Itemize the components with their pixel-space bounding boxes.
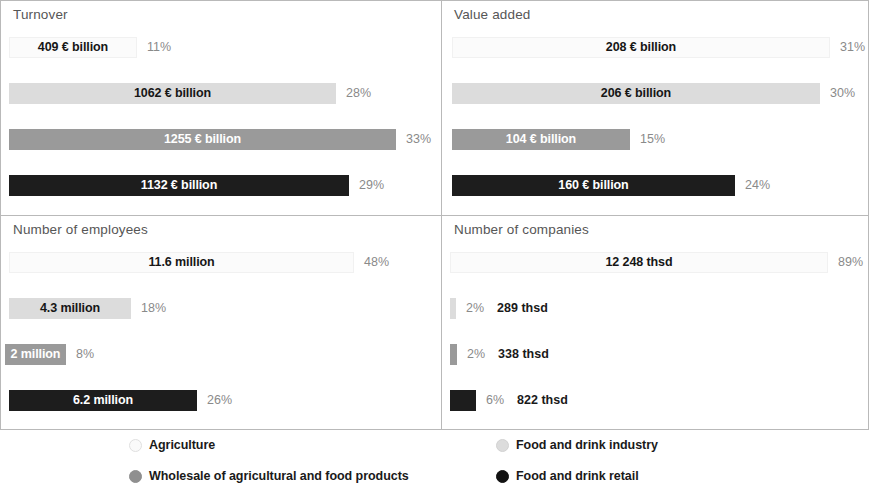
bar-food-and-drink-retail: 6.2 million [9,390,197,411]
bar-value-label: 12 248 thsd [606,255,673,269]
bar-percent-label: 26% [207,393,232,407]
legend-item-wholesale: Wholesale of agricultural and food produ… [129,469,409,483]
bar-food-and-drink-industry: 4.3 million [9,298,131,319]
bar-row: 2% 289 thsd [442,286,868,330]
bar-food-and-drink-retail [450,390,476,411]
bar-percent-label: 89% [838,255,863,269]
bar-value-label: 1255 € billion [164,132,241,146]
bar-food-and-drink-industry: 1062 € billion [9,83,336,104]
bar-group-number-of-companies: 12 248 thsd 89% 2% 289 thsd 2% 338 thsd … [442,240,868,429]
bar-value-label: 4.3 million [40,301,100,315]
panel-value-added: Value added 208 € billion 31% 206 € bill… [442,1,868,215]
chart-legend: Agriculture Food and drink industry Whol… [0,430,869,497]
bar-value-label: 11.6 million [148,255,214,269]
legend-label: Food and drink retail [516,469,639,483]
panel-title-turnover: Turnover [13,7,68,22]
bar-value-label: 2 million [11,347,61,361]
bar-row: 4.3 million 18% [1,286,441,330]
bar-value-label: 289 thsd [497,301,548,315]
bar-value-label: 822 thsd [517,393,568,407]
bar-agriculture: 11.6 million [9,252,354,273]
bar-group-turnover: 409 € billion 11% 1062 € billion 28% 125… [1,25,441,215]
legend-swatch-industry-icon [496,439,509,452]
bar-row: 2% 338 thsd [442,332,868,376]
bar-percent-label: 6% [486,393,504,407]
bar-value-label: 208 € billion [606,40,676,54]
panel-title-value-added: Value added [454,7,530,22]
bar-row: 2 million 8% [1,332,441,376]
bar-percent-label: 29% [359,178,384,192]
bar-food-and-drink-industry: 206 € billion [452,83,820,104]
bar-percent-label: 30% [830,86,855,100]
bar-row: 160 € billion 24% [442,163,868,207]
bar-row: 6% 822 thsd [442,378,868,422]
bar-percent-label: 48% [364,255,389,269]
bar-percent-label: 11% [147,40,171,54]
bar-row: 11.6 million 48% [1,240,441,284]
bar-agriculture: 12 248 thsd [450,252,828,273]
panel-title-number-of-companies: Number of companies [454,222,589,237]
legend-swatch-retail-icon [496,470,509,483]
bar-wholesale: 104 € billion [452,129,630,150]
legend-swatch-wholesale-icon [129,470,142,483]
bar-value-label: 1062 € billion [134,86,211,100]
bar-row: 1062 € billion 28% [1,71,441,115]
bar-value-label: 1132 € billion [141,178,217,192]
bar-row: 6.2 million 26% [1,378,441,422]
bar-row: 1132 € billion 29% [1,163,441,207]
bar-value-label: 338 thsd [498,347,549,361]
bar-percent-label: 2% [466,301,484,315]
legend-item-agriculture: Agriculture [129,438,215,452]
panel-number-of-employees: Number of employees 11.6 million 48% 4.3… [1,216,441,429]
legend-label: Agriculture [149,438,215,452]
bar-percent-label: 8% [76,347,94,361]
bar-wholesale: 1255 € billion [9,129,396,150]
bar-food-and-drink-industry [450,298,456,319]
bar-wholesale: 2 million [5,344,66,365]
bar-percent-label: 24% [745,178,770,192]
bar-percent-label: 28% [346,86,371,100]
legend-item-food-and-drink-retail: Food and drink retail [496,469,639,483]
bar-percent-label: 33% [406,132,431,146]
bar-row: 409 € billion 11% [1,25,441,69]
legend-swatch-agriculture-icon [129,439,142,452]
bar-value-label: 104 € billion [506,132,576,146]
bar-value-label: 206 € billion [601,86,671,100]
bar-percent-label: 15% [640,132,665,146]
bar-row: 1255 € billion 33% [1,117,441,161]
legend-item-food-and-drink-industry: Food and drink industry [496,438,658,452]
bar-agriculture: 208 € billion [452,37,830,58]
bar-row: 206 € billion 30% [442,71,868,115]
panel-turnover: Turnover 409 € billion 11% 1062 € billio… [1,1,441,215]
bar-group-value-added: 208 € billion 31% 206 € billion 30% 104 … [442,25,868,215]
bar-value-label: 160 € billion [558,178,628,192]
bar-row: 12 248 thsd 89% [442,240,868,284]
bar-percent-label: 18% [141,301,166,315]
bar-percent-label: 2% [467,347,485,361]
legend-label: Food and drink industry [516,438,658,452]
panel-title-number-of-employees: Number of employees [13,222,148,237]
agri-food-chain-infographic: Turnover 409 € billion 11% 1062 € billio… [0,0,869,497]
bar-agriculture: 409 € billion [9,37,137,58]
bar-value-label: 6.2 million [73,393,133,407]
bar-group-number-of-employees: 11.6 million 48% 4.3 million 18% 2 milli… [1,240,441,429]
bar-value-label: 409 € billion [38,40,108,54]
bar-food-and-drink-retail: 160 € billion [452,175,735,196]
bar-percent-label: 31% [840,40,865,54]
panel-number-of-companies: Number of companies 12 248 thsd 89% 2% 2… [442,216,868,429]
bar-food-and-drink-retail: 1132 € billion [9,175,349,196]
bar-wholesale [450,344,457,365]
bar-row: 208 € billion 31% [442,25,868,69]
legend-label: Wholesale of agricultural and food produ… [149,469,409,483]
bar-row: 104 € billion 15% [442,117,868,161]
